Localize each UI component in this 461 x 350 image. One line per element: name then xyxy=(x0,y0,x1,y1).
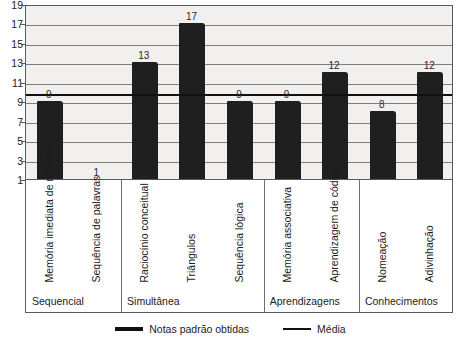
category-label: Memória imediata de número xyxy=(43,145,54,282)
bar-value-label: 12 xyxy=(409,60,449,71)
category-label: Adivinhação xyxy=(424,225,435,282)
thick-line-icon xyxy=(115,327,143,331)
legend-label-notas: Notas padrão obtidas xyxy=(149,323,249,335)
chart-area: 135791113151719 9113179912812 Memória im… xyxy=(25,5,453,313)
bar xyxy=(322,72,348,179)
legend-label-media: Média xyxy=(317,323,346,335)
category-label: Triângulos xyxy=(186,233,197,282)
group-separator xyxy=(121,180,122,312)
y-tick-label: 1 xyxy=(1,174,23,186)
legend-item-media: Média xyxy=(283,323,346,335)
y-tick-label: 11 xyxy=(1,77,23,89)
y-tick-label: 5 xyxy=(1,135,23,147)
legend-item-notas: Notas padrão obtidas xyxy=(115,323,249,335)
bar xyxy=(132,62,158,179)
bar-value-label: 17 xyxy=(171,11,211,22)
category-label: Raciocínio conceitual xyxy=(138,183,149,282)
bar xyxy=(179,23,205,179)
gridline xyxy=(26,45,452,46)
bar-chart-figure: 135791113151719 9113179912812 Memória im… xyxy=(0,0,461,350)
category-label: Sequência de palavras xyxy=(91,175,102,282)
group-separator xyxy=(264,180,265,312)
bar-value-label: 12 xyxy=(314,60,354,71)
group-label: Aprendizagens xyxy=(270,295,340,307)
y-tick-label: 3 xyxy=(1,155,23,167)
bar-value-label: 9 xyxy=(267,89,307,100)
group-label: Simultânea xyxy=(127,295,180,307)
bar-value-label: 9 xyxy=(219,89,259,100)
y-tick-label: 13 xyxy=(1,57,23,69)
gridline xyxy=(26,25,452,26)
group-separator xyxy=(359,180,360,312)
category-label: Nomeação xyxy=(376,231,387,282)
y-tick-label: 19 xyxy=(1,0,23,11)
bar xyxy=(227,101,253,179)
bar-value-label: 13 xyxy=(124,50,164,61)
bar xyxy=(370,111,396,179)
y-tick-label: 17 xyxy=(1,18,23,30)
category-label-band: Memória imediata de númeroSequência de p… xyxy=(25,180,453,313)
y-tick-label: 7 xyxy=(1,116,23,128)
thin-line-icon xyxy=(283,328,311,330)
y-tick-label: 15 xyxy=(1,38,23,50)
category-label: Memória associativa xyxy=(281,186,292,282)
bar xyxy=(417,72,443,179)
group-label: Conhecimentos xyxy=(365,295,438,307)
bar-value-label: 9 xyxy=(29,89,69,100)
category-label: Sequência lógica xyxy=(234,202,245,282)
y-tick-label: 9 xyxy=(1,96,23,108)
gridline xyxy=(26,84,452,85)
gridline xyxy=(26,64,452,65)
category-label: Aprendizagem de código xyxy=(329,166,340,282)
group-label: Sequencial xyxy=(32,295,84,307)
chart-legend: Notas padrão obtidas Média xyxy=(0,316,461,342)
bar-value-label: 8 xyxy=(362,99,402,110)
bar xyxy=(275,101,301,179)
